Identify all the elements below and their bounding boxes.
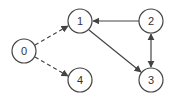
node-0: 0 [12, 39, 36, 63]
node-4: 4 [68, 68, 92, 92]
edge-0-to-4 [35, 57, 68, 76]
edge-1-to-3 [89, 30, 141, 72]
node-2: 2 [139, 9, 163, 33]
edge-0-to-1 [35, 26, 68, 45]
node-3: 3 [139, 68, 163, 92]
graph-canvas: 0 1 2 3 4 [0, 0, 172, 98]
node-1: 1 [68, 9, 92, 33]
node-3-label: 3 [148, 74, 154, 86]
node-1-label: 1 [77, 15, 83, 27]
node-0-label: 0 [21, 45, 27, 57]
node-2-label: 2 [148, 15, 154, 27]
node-4-label: 4 [77, 74, 83, 86]
